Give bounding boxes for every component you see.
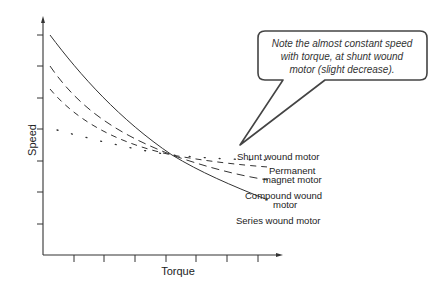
callout-line-3: motor (slight decrease). (289, 64, 394, 75)
x-ticks (74, 255, 258, 262)
label-shunt-wound: Shunt wound motor (237, 151, 319, 162)
x-axis-label: Torque (161, 265, 195, 277)
permanent-magnet-curve (50, 89, 268, 167)
callout-line-1: Note the almost constant speed (272, 38, 413, 49)
compound-wound-curve (50, 66, 268, 180)
y-axis-arrow-icon (41, 16, 45, 23)
label-compound-wound-2: motor (273, 199, 297, 210)
curves (50, 35, 268, 200)
speed-torque-diagram: Speed Torque Shunt wound motor Permanent… (0, 0, 446, 289)
callout-line-2: with torque, at shunt wound (281, 51, 404, 62)
x-axis-arrow-icon (276, 253, 283, 257)
y-axis-label: Speed (26, 124, 38, 156)
label-permanent-magnet-2: magnet motor (263, 174, 322, 185)
label-series-wound: Series wound motor (236, 215, 320, 226)
series-wound-curve (50, 35, 268, 200)
callout-bubble: Note the almost constant speed with torq… (240, 31, 427, 145)
axes: Speed Torque (26, 16, 283, 277)
curve-labels: Shunt wound motor Permanent magnet motor… (236, 151, 322, 226)
